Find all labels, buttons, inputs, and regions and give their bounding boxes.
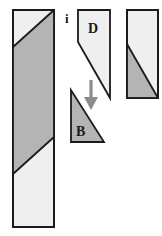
left-tall-rectangle: [13, 10, 54, 227]
right-rectangle: [127, 10, 158, 98]
piece-D: D: [78, 10, 110, 98]
geometry-figure: D i B: [0, 0, 162, 236]
step-marker-label: i: [65, 11, 69, 26]
down-arrow-icon: [84, 80, 98, 110]
figure-canvas: D i B: [0, 0, 162, 236]
piece-B-label: B: [76, 124, 85, 139]
arrow-head: [84, 97, 98, 110]
piece-D-label: D: [88, 21, 98, 36]
